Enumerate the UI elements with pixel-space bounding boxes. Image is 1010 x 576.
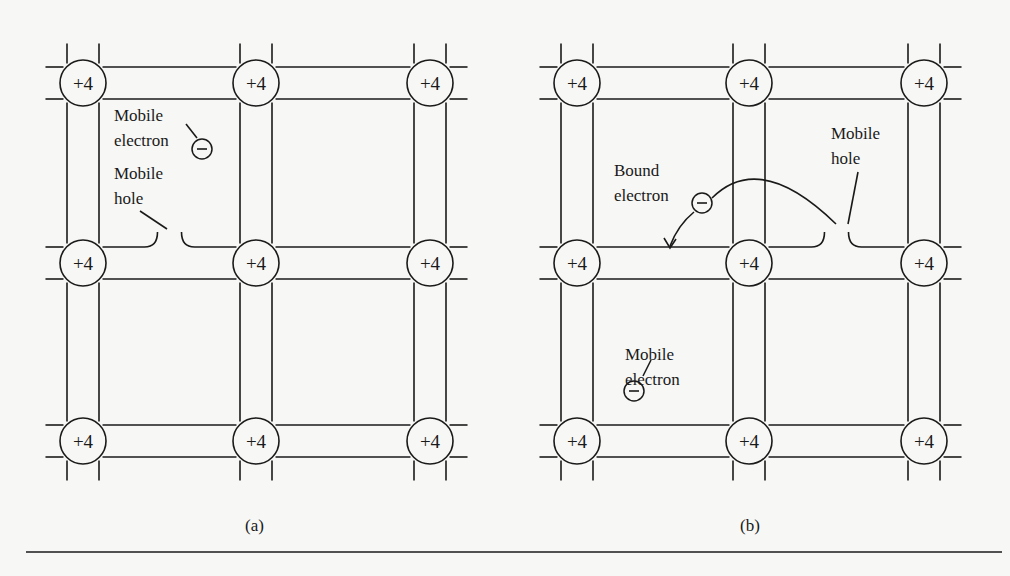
label-a-mobile-hole-1: Mobile (114, 164, 163, 183)
atom-charge-label: +4 (567, 253, 588, 274)
label-a-mobile-hole-2: hole (114, 189, 143, 208)
atom-charge-label: +4 (739, 253, 760, 274)
atom-charge-label: +4 (73, 253, 94, 274)
lattice-diagram: +4+4+4+4+4+4+4+4+4+4+4+4+4+4+4+4+4+4 (0, 0, 1010, 576)
label-a-mobile-electron-1: Mobile (114, 106, 163, 125)
broken-bond-right (849, 232, 905, 247)
label-b-bound-electron-2: electron (614, 186, 669, 205)
leader-line (186, 124, 197, 138)
atom-charge-label: +4 (739, 431, 760, 452)
label-a-mobile-electron-2: electron (114, 131, 169, 150)
label-b-mobile-electron-2: electron (625, 370, 680, 389)
caption-a: (a) (245, 516, 264, 536)
electron-move-arrow (670, 212, 694, 246)
broken-bond-left (103, 232, 158, 247)
label-b-mobile-hole-1: Mobile (831, 124, 880, 143)
leader-line (848, 172, 858, 224)
broken-bond-left (769, 232, 825, 247)
atom-charge-label: +4 (246, 73, 267, 94)
atom-charge-label: +4 (73, 431, 94, 452)
atom-charge-label: +4 (914, 431, 935, 452)
atom-charge-label: +4 (567, 73, 588, 94)
atom-charge-label: +4 (567, 431, 588, 452)
electron-jump-arc (712, 179, 836, 224)
atom-charge-label: +4 (246, 253, 267, 274)
label-b-mobile-hole-2: hole (831, 149, 860, 168)
leader-line (140, 211, 167, 229)
atom-charge-label: +4 (420, 431, 441, 452)
atom-charge-label: +4 (420, 253, 441, 274)
atom-charge-label: +4 (246, 431, 267, 452)
caption-b: (b) (740, 516, 760, 536)
atom-charge-label: +4 (73, 73, 94, 94)
atom-charge-label: +4 (914, 253, 935, 274)
label-b-bound-electron-1: Bound (614, 161, 659, 180)
atom-charge-label: +4 (420, 73, 441, 94)
atom-charge-label: +4 (739, 73, 760, 94)
atom-charge-label: +4 (914, 73, 935, 94)
broken-bond-right (182, 232, 237, 247)
label-b-mobile-electron-1: Mobile (625, 345, 674, 364)
